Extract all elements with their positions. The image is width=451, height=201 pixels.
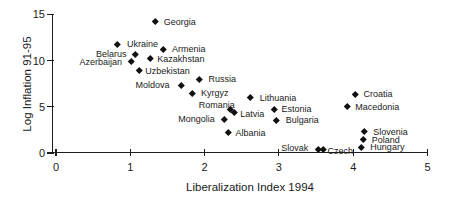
inflation-liberalization-scatter-chart: Log Inflation 91-95 012345051015 Georgia… [0, 0, 451, 201]
data-point-label-latvia: Latvia [240, 109, 264, 119]
data-point-label-lithuania: Lithuania [260, 93, 297, 103]
data-point-label-slovak: Slovak [281, 143, 308, 153]
x-tick-label: 0 [44, 161, 68, 173]
data-point-armenia [160, 46, 166, 52]
data-point-russia [196, 76, 202, 82]
data-point-georgia [152, 18, 158, 24]
data-point-ukraine [114, 41, 120, 47]
y-tick-label: 0 [18, 147, 45, 159]
data-point-belarus [132, 51, 138, 57]
data-point-poland [360, 136, 366, 142]
x-tick-label: 3 [267, 161, 291, 173]
data-point-label-georgia: Georgia [164, 17, 196, 27]
data-point-label-uzbekistan: Uzbekistan [145, 66, 190, 76]
x-tick-mark [278, 149, 279, 156]
data-point-label-kyrgyz: Kyrgyz [201, 88, 229, 98]
x-tick-mark [204, 149, 205, 156]
y-tick-mark [47, 60, 54, 61]
data-point-label-kazakhstan: Kazakhstan [157, 54, 204, 64]
data-point-uzbekistan [136, 67, 142, 73]
x-tick-label: 5 [416, 161, 440, 173]
x-tick-mark [55, 149, 56, 156]
data-point-label-azerbaijan: Azerbaijan [80, 57, 123, 67]
x-tick-mark [130, 149, 131, 156]
data-point-label-ukraine: Ukraine [127, 39, 158, 49]
data-point-slovenia [361, 128, 367, 134]
data-point-label-croatia: Croatia [363, 89, 392, 99]
x-tick-mark [427, 149, 428, 156]
data-point-hungary [358, 144, 364, 150]
y-tick-label: 5 [18, 101, 45, 113]
y-axis-title: Log Inflation 91-95 [20, 14, 34, 154]
x-tick-label: 1 [118, 161, 142, 173]
data-point-albania [225, 129, 231, 135]
data-point-label-moldova: Moldova [136, 80, 170, 90]
y-tick-mark [47, 14, 54, 15]
y-tick-mark [47, 152, 54, 153]
y-tick-mark [47, 106, 54, 107]
x-tick-label: 2 [193, 161, 217, 173]
y-tick-label: 10 [18, 55, 45, 67]
data-point-kazakhstan [147, 55, 153, 61]
data-point-label-hungary: Hungary [370, 142, 404, 152]
data-point-macedonia [344, 103, 350, 109]
y-axis-line [52, 14, 53, 152]
x-axis-title: Liberalization Index 1994 [170, 180, 330, 194]
data-point-croatia [352, 91, 358, 97]
data-point-label-romania: Romania [199, 100, 235, 110]
x-tick-label: 4 [341, 161, 365, 173]
data-point-label-mongolia: Mongolia [178, 114, 215, 124]
data-point-label-czech: Czech [327, 146, 353, 156]
data-point-label-albania: Albania [235, 128, 265, 138]
data-point-bulgaria [273, 117, 279, 123]
data-point-label-estonia: Estonia [281, 104, 311, 114]
data-point-label-macedonia: Macedonia [355, 102, 399, 112]
data-point-latvia [231, 109, 237, 115]
data-point-mongolia [221, 116, 227, 122]
y-tick-label: 15 [18, 8, 45, 20]
data-point-lithuania [247, 94, 253, 100]
data-point-kyrgyz [189, 90, 195, 96]
data-point-estonia [271, 106, 277, 112]
data-point-label-russia: Russia [208, 74, 236, 84]
data-point-label-bulgaria: Bulgaria [286, 115, 319, 125]
data-point-moldova [178, 82, 184, 88]
data-point-azerbaijan [128, 58, 134, 64]
